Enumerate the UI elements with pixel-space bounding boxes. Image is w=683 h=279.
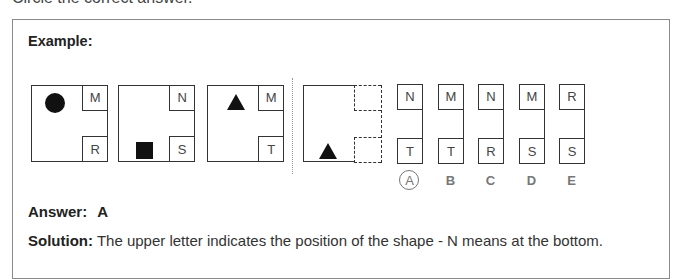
top-letter-cell: R xyxy=(559,84,585,110)
option-b[interactable]: M T xyxy=(437,85,464,163)
top-letter-cell: M xyxy=(82,85,108,111)
example-figure-2: N S xyxy=(118,85,195,162)
question-figure-dashed-edge xyxy=(381,85,382,163)
circle-shape-icon xyxy=(45,93,65,113)
option-label-c[interactable]: C xyxy=(477,173,504,188)
bottom-letter-cell: R xyxy=(478,138,504,164)
bottom-letter-cell: T xyxy=(258,136,284,162)
example-title: Example: xyxy=(28,33,92,49)
missing-bottom-cell xyxy=(354,137,381,163)
option-e[interactable]: R S xyxy=(558,85,585,163)
instruction-text: Circle the correct answer. xyxy=(12,0,193,7)
option-label-a[interactable]: A xyxy=(396,173,423,188)
answer-label: Answer: xyxy=(28,203,87,220)
option-label-d[interactable]: D xyxy=(518,173,545,188)
solution-label: Solution: xyxy=(28,232,93,249)
bottom-letter-cell: T xyxy=(438,138,464,164)
top-letter-cell: M xyxy=(438,84,464,110)
option-c[interactable]: N R xyxy=(477,85,504,163)
solution-line: Solution: The upper letter indicates the… xyxy=(28,232,603,249)
answer-line: Answer:A xyxy=(28,203,108,220)
bottom-letter-cell: S xyxy=(169,136,195,162)
example-figure-1: M R xyxy=(31,85,108,162)
top-letter-cell: M xyxy=(258,85,284,111)
solution-text: The upper letter indicates the position … xyxy=(93,232,603,249)
top-letter-cell: M xyxy=(519,84,545,110)
bottom-letter-cell: S xyxy=(519,138,545,164)
bottom-letter-cell: T xyxy=(397,138,423,164)
bottom-letter-cell: S xyxy=(559,138,585,164)
triangle-shape-icon xyxy=(319,143,337,159)
top-letter-cell: N xyxy=(169,85,195,111)
example-figure-3: M T xyxy=(207,85,284,162)
top-letter-cell: N xyxy=(478,84,504,110)
answer-value: A xyxy=(97,203,108,220)
triangle-shape-icon xyxy=(227,94,245,110)
bottom-letter-cell: R xyxy=(82,136,108,162)
question-figure xyxy=(303,85,382,163)
missing-top-cell xyxy=(354,85,381,111)
option-label-e[interactable]: E xyxy=(558,173,585,188)
square-shape-icon xyxy=(136,142,153,159)
option-d[interactable]: M S xyxy=(518,85,545,163)
option-label-b[interactable]: B xyxy=(437,173,464,188)
top-letter-cell: N xyxy=(397,84,423,110)
option-a[interactable]: N T xyxy=(396,85,423,163)
dotted-separator xyxy=(292,78,293,174)
